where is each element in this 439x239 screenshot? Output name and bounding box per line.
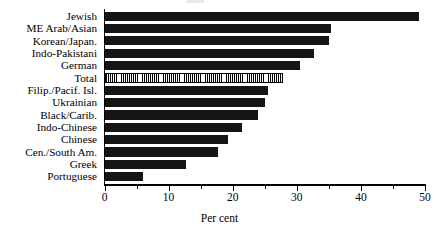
bar-row: [105, 170, 426, 182]
bar-row: [105, 59, 426, 71]
category-label: German: [0, 59, 101, 71]
x-tick-major: [105, 186, 106, 191]
x-tick-major: [425, 186, 426, 191]
bar-chinese: [105, 135, 229, 144]
x-tick-label: 40: [341, 191, 381, 203]
bar-jewish: [105, 12, 419, 21]
x-tick-major: [233, 186, 234, 191]
category-label: Korean/Japan.: [0, 35, 101, 47]
category-label: ME Arab/Asian: [0, 22, 101, 34]
category-label: Black/Carib.: [0, 109, 101, 121]
bar-chart: Jewish ME Arab/Asian Korean/Japan. Indo-…: [0, 0, 439, 239]
category-label: Chinese: [0, 133, 101, 145]
bar-german: [105, 61, 301, 70]
bar-portuguese: [105, 172, 143, 181]
x-axis-title: Per cent: [0, 212, 439, 224]
bar-indo-chinese: [105, 123, 242, 132]
bar-cen-south-am: [105, 147, 218, 156]
bar-filip-pacif-isl: [105, 86, 268, 95]
category-label: Greek: [0, 158, 101, 170]
bar-row: [105, 158, 426, 170]
bar-black-carib: [105, 110, 259, 119]
bar-ukrainian: [105, 98, 265, 107]
bar-row: [105, 22, 426, 34]
x-tick-label: 10: [149, 191, 189, 203]
x-tick-minor: [265, 186, 266, 189]
category-label: Portuguese: [0, 170, 101, 182]
bar-row: [105, 35, 426, 47]
category-label: Ukrainian: [0, 96, 101, 108]
category-label: Cen./South Am.: [0, 146, 101, 158]
category-label: Indo-Pakistani: [0, 47, 101, 59]
x-tick-major: [297, 186, 298, 191]
category-label: Total: [0, 72, 101, 84]
bar-row: [105, 133, 426, 145]
category-axis-labels: Jewish ME Arab/Asian Korean/Japan. Indo-…: [0, 10, 101, 183]
bar-total: [105, 73, 283, 82]
bar-greek: [105, 160, 186, 169]
bar-row: [105, 109, 426, 121]
bar-row: [105, 146, 426, 158]
category-label: Filip./Pacif. Isl.: [0, 84, 101, 96]
x-tick-label: 50: [405, 191, 439, 203]
cropped-title-artifact: [186, 0, 204, 3]
plot-area: [105, 10, 426, 183]
bar-indo-pakistani: [105, 49, 315, 58]
x-tick-minor: [201, 186, 202, 189]
category-label: Jewish: [0, 10, 101, 22]
x-tick-minor: [393, 186, 394, 189]
x-tick-label: 30: [277, 191, 317, 203]
bar-korean-japan: [105, 36, 329, 45]
bar-row: [105, 10, 426, 22]
bar-row: [105, 84, 426, 96]
x-tick-major: [169, 186, 170, 191]
bar-row: [105, 72, 426, 84]
bar-row: [105, 121, 426, 133]
category-label: Indo-Chinese: [0, 121, 101, 133]
bar-me-arab-asian: [105, 24, 331, 33]
x-tick-label: 0: [85, 191, 125, 203]
bar-row: [105, 96, 426, 108]
x-tick-minor: [137, 186, 138, 189]
x-tick-label: 20: [213, 191, 253, 203]
x-tick-major: [361, 186, 362, 191]
x-tick-minor: [329, 186, 330, 189]
bar-row: [105, 47, 426, 59]
